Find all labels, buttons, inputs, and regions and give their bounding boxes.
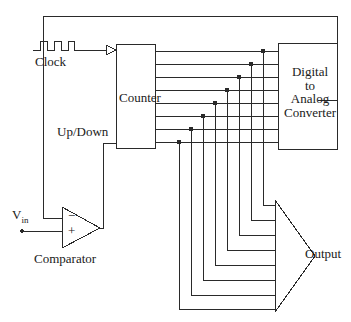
up-down-label: Up/Down [57, 125, 108, 139]
clock-waveform-icon [33, 41, 80, 50]
adc-block-diagram: Clock Up/Down Counter Digital to Analog … [0, 0, 351, 322]
dac-label-line-3: Analog [281, 92, 339, 106]
counter-label: Counter [119, 91, 161, 105]
comparator-label: Comparator [34, 252, 96, 266]
output-label: Output [305, 247, 341, 261]
clock-label: Clock [35, 55, 66, 69]
diagram-canvas [0, 0, 351, 322]
vin-label-text: V [12, 207, 21, 222]
counter-to-dac-bus [155, 51, 278, 142]
vin-terminal-dot [20, 229, 24, 233]
up-down-wire [100, 143, 116, 228]
dac-label-line-4: Converter [281, 106, 339, 120]
dac-label-line-1: Digital [281, 65, 339, 79]
bus-junction-dots [177, 49, 265, 144]
dac-label: Digital to Analog Converter [281, 65, 339, 120]
comparator-plus-sign: + [68, 224, 75, 238]
vin-label-subscript: in [21, 215, 28, 225]
clock-edge-triangle-icon [106, 45, 116, 55]
vin-label: Vin [12, 208, 28, 225]
dac-label-line-2: to [281, 79, 339, 93]
clock-input-wire [80, 45, 116, 55]
comparator-minus-sign: − [68, 209, 75, 223]
